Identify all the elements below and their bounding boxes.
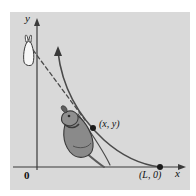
figure-canvas — [0, 0, 196, 196]
point-xy-dot — [90, 125, 96, 131]
origin-label: 0 — [24, 170, 30, 181]
dog-ear — [61, 106, 67, 113]
y-axis-arrowhead — [34, 18, 40, 26]
dog-head — [62, 111, 79, 126]
point-xy-label: (x, y) — [99, 119, 120, 129]
rabbit-ear-right — [29, 35, 31, 42]
prey-figure — [24, 35, 34, 66]
figure-root: y x 0 (x, y) (L, 0) — [0, 0, 196, 196]
y-axis-label: y — [25, 13, 30, 24]
rabbit-body — [24, 40, 34, 66]
rabbit-ear-left — [25, 35, 28, 42]
point-L0-label: (L, 0) — [139, 170, 161, 180]
x-axis-label: x — [175, 168, 180, 179]
dog-eye — [68, 115, 71, 118]
pursuit-curve-arrowhead — [54, 46, 62, 56]
